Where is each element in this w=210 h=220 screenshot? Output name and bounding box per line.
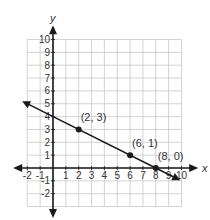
y-tick-label: 1 [44,150,50,161]
data-point-label: (8, 0) [158,150,184,162]
y-axis-down-arrow-icon [49,209,57,218]
y-tick-label: 5 [44,98,50,109]
x-tick-label: 8 [153,170,159,181]
y-axis-up-arrow-icon [49,25,57,34]
coordinate-plane: xy -2-11234567891010987654321-1-2 (2, 3)… [0,0,210,220]
data-point [76,126,82,132]
y-tick-label: 8 [44,60,50,71]
x-tick-label: 1 [63,170,69,181]
x-tick-label: 6 [127,170,133,181]
x-axis-right-arrow-icon [189,164,198,172]
data-point [127,152,133,158]
x-tick-label: -2 [23,170,32,181]
y-axis-label: y [49,12,57,24]
y-tick-label: 10 [39,34,51,45]
data-point-label: (2, 3) [81,111,107,123]
y-tick-label: 7 [44,73,50,84]
data-point [153,165,159,171]
x-tick-label: 7 [140,170,146,181]
x-axis-label: x [201,162,208,174]
x-tick-label: 3 [89,170,95,181]
y-tick-label: -2 [41,188,50,199]
data-point-label: (6, 1) [132,137,158,149]
x-axis-left-arrow-icon [13,164,22,172]
x-tick-label: 2 [76,170,82,181]
y-tick-label: 3 [44,124,50,135]
y-tick-label: 6 [44,85,50,96]
y-tick-label: 2 [44,137,50,148]
x-tick-label: 5 [114,170,120,181]
y-tick-label: 9 [44,47,50,58]
y-tick-label: -1 [41,175,50,186]
x-tick-label: 4 [102,170,108,181]
